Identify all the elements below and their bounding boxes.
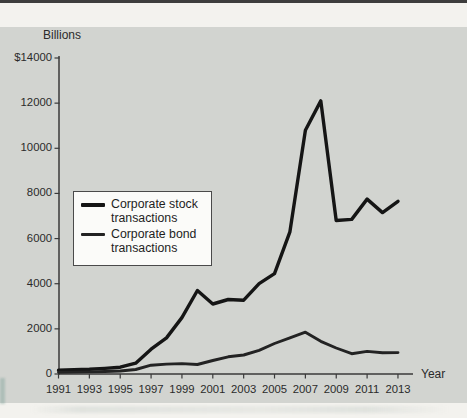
x-tick-label-2001: 2001 — [196, 383, 230, 395]
y-tick-label-0: 0 — [6, 367, 52, 379]
chart-canvas — [0, 0, 467, 418]
x-tick-label-2007: 2007 — [288, 383, 322, 395]
x-tick-label-1993: 1993 — [72, 383, 106, 395]
legend-item-bond: Corporate bond transactions — [81, 228, 207, 255]
x-tick-label-2003: 2003 — [227, 383, 261, 395]
x-tick-label-2005: 2005 — [258, 383, 292, 395]
y-tick-label-8000: 8000 — [6, 186, 52, 198]
x-tick-label-1995: 1995 — [103, 383, 137, 395]
y-axis-title: Billions — [43, 28, 81, 42]
x-tick-label-1999: 1999 — [165, 383, 199, 395]
x-tick-label-1991: 1991 — [42, 383, 76, 395]
bond-line-swatch — [81, 233, 105, 236]
stock-line-swatch — [81, 203, 105, 207]
x-tick-label-2011: 2011 — [350, 383, 384, 395]
x-tick-label-2013: 2013 — [381, 383, 415, 395]
book-figure-page: { "figure": { "y_axis_title": "Billions"… — [0, 0, 467, 418]
x-tick-label-1997: 1997 — [134, 383, 168, 395]
legend: Corporate stock transactions Corporate b… — [73, 191, 212, 266]
y-tick-label-10000: 10000 — [6, 141, 52, 153]
y-tick-label-2000: 2000 — [6, 322, 52, 334]
bond-line — [59, 332, 399, 372]
y-tick-label-12000: 12000 — [6, 96, 52, 108]
x-axis-title: Year — [421, 367, 445, 381]
y-tick-label-14000: $14000 — [6, 51, 52, 63]
legend-label-stock: Corporate stock transactions — [111, 198, 207, 225]
y-tick-label-4000: 4000 — [6, 277, 52, 289]
legend-item-stock: Corporate stock transactions — [81, 198, 207, 225]
y-tick-label-6000: 6000 — [6, 232, 52, 244]
x-tick-label-2009: 2009 — [319, 383, 353, 395]
legend-label-bond: Corporate bond transactions — [111, 228, 207, 255]
